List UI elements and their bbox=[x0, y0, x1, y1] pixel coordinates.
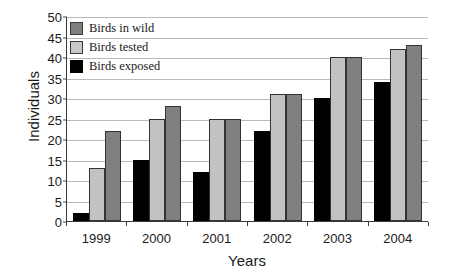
x-axis-tick-mark bbox=[307, 222, 308, 226]
y-axis-tick-label: 30 bbox=[30, 93, 62, 106]
bar bbox=[73, 213, 89, 221]
bar bbox=[133, 160, 149, 222]
bar bbox=[209, 119, 225, 222]
x-axis-tick-label: 2000 bbox=[126, 231, 186, 246]
legend-swatch-icon bbox=[70, 60, 83, 73]
bar-group-2002 bbox=[248, 17, 308, 221]
bar bbox=[89, 168, 105, 221]
bar-chart-figure: Individuals 50454035302520151050 Birds i… bbox=[0, 0, 450, 280]
y-axis-tick-label: 15 bbox=[30, 154, 62, 167]
legend-item: Birds in wild bbox=[68, 19, 198, 37]
y-axis-tick-label: 35 bbox=[30, 72, 62, 85]
y-axis-tick-label: 40 bbox=[30, 52, 62, 65]
y-axis-tick-label: 25 bbox=[30, 113, 62, 126]
bar bbox=[286, 94, 302, 221]
bar-group-2004 bbox=[368, 17, 428, 221]
legend-label: Birds exposed bbox=[89, 59, 160, 74]
bar bbox=[254, 131, 270, 221]
x-axis-tick-mark bbox=[247, 222, 248, 226]
y-axis-tick-label: 20 bbox=[30, 134, 62, 147]
bar bbox=[346, 57, 362, 221]
x-axis-tick-label: 2003 bbox=[307, 231, 367, 246]
bar bbox=[390, 49, 406, 221]
bar bbox=[270, 94, 286, 221]
x-axis-tick-mark bbox=[66, 222, 67, 226]
bar bbox=[105, 131, 121, 221]
bar bbox=[193, 172, 209, 221]
legend-label: Birds tested bbox=[89, 40, 148, 55]
bar bbox=[149, 119, 165, 222]
y-axis-tick-label: 5 bbox=[30, 195, 62, 208]
x-axis-title: Years bbox=[66, 252, 428, 269]
y-axis-tick-labels: 50454035302520151050 bbox=[30, 17, 62, 222]
x-axis-tick-mark bbox=[368, 222, 369, 226]
legend-item: Birds exposed bbox=[68, 57, 198, 75]
x-axis-tick-label: 1999 bbox=[66, 231, 126, 246]
x-axis-tick-mark bbox=[187, 222, 188, 226]
y-axis-tick-label: 0 bbox=[30, 216, 62, 229]
plot-area: Birds in wildBirds testedBirds exposed bbox=[66, 17, 428, 222]
legend-item: Birds tested bbox=[68, 38, 198, 56]
x-axis-tick-labels: 199920002001200220032004 bbox=[66, 231, 428, 246]
bar-group-2003 bbox=[308, 17, 368, 221]
y-axis-tick-label: 45 bbox=[30, 31, 62, 44]
bar bbox=[330, 57, 346, 221]
legend-swatch-icon bbox=[70, 41, 83, 54]
chart-legend: Birds in wildBirds testedBirds exposed bbox=[68, 18, 198, 77]
y-axis-tick-label: 10 bbox=[30, 175, 62, 188]
bar bbox=[314, 98, 330, 221]
bar bbox=[165, 106, 181, 221]
bar bbox=[406, 45, 422, 221]
y-axis-tick-label: 50 bbox=[30, 11, 62, 24]
bar bbox=[374, 82, 390, 221]
x-axis-tick-label: 2001 bbox=[187, 231, 247, 246]
legend-label: Birds in wild bbox=[89, 21, 154, 36]
x-axis-tick-mark bbox=[428, 222, 429, 226]
x-axis-tick-marks bbox=[66, 222, 428, 227]
bar bbox=[225, 119, 241, 222]
x-axis-tick-mark bbox=[126, 222, 127, 226]
legend-swatch-icon bbox=[70, 22, 83, 35]
x-axis-tick-label: 2002 bbox=[247, 231, 307, 246]
x-axis-tick-label: 2004 bbox=[368, 231, 428, 246]
